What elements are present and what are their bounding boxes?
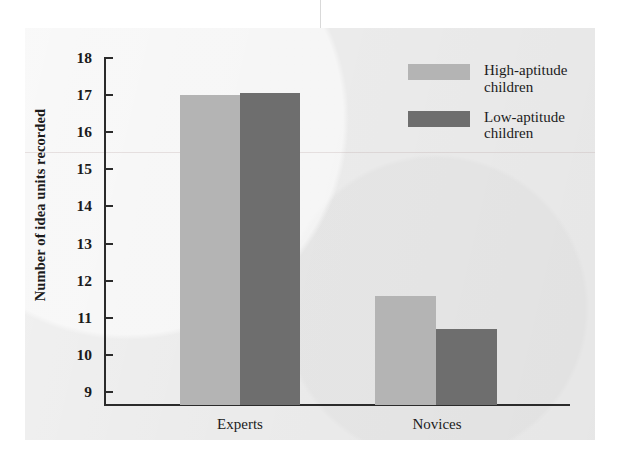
x-axis-line (104, 404, 570, 406)
y-tick-label-12: 12 (52, 272, 92, 290)
y-tick-label-13: 13 (52, 235, 92, 253)
bar-experts-low-aptitude (240, 93, 300, 405)
y-tick-label-18: 18 (52, 49, 92, 67)
bar-experts-high-aptitude (180, 95, 240, 405)
y-tick-label-14: 14 (52, 197, 92, 215)
bar-novices-low-aptitude (436, 329, 497, 405)
y-axis-tick-labels: 9101112131415161718 (50, 0, 92, 465)
x-category-label-novices: Novices (367, 416, 507, 433)
legend-item-low-aptitude: Low-aptitude children (408, 109, 598, 143)
y-axis-line (104, 58, 106, 405)
legend-swatch-low-aptitude (408, 111, 470, 127)
y-tick-label-17: 17 (52, 86, 92, 104)
bar-novices-high-aptitude (375, 296, 436, 405)
bar-chart: Number of idea units recorded 9101112131… (0, 0, 620, 465)
legend-label-high-aptitude: High-aptitude children (484, 62, 567, 96)
y-tick-label-9: 9 (52, 383, 92, 401)
y-tick-label-10: 10 (52, 346, 92, 364)
y-tick-label-11: 11 (52, 309, 92, 327)
y-tick-label-16: 16 (52, 123, 92, 141)
chart-legend: High-aptitude childrenLow-aptitude child… (408, 62, 598, 155)
y-axis-label: Number of idea units recorded (32, 55, 49, 355)
legend-swatch-high-aptitude (408, 64, 470, 80)
y-tick-label-15: 15 (52, 160, 92, 178)
legend-label-low-aptitude: Low-aptitude children (484, 109, 565, 143)
legend-item-high-aptitude: High-aptitude children (408, 62, 598, 96)
x-category-label-experts: Experts (170, 416, 310, 433)
